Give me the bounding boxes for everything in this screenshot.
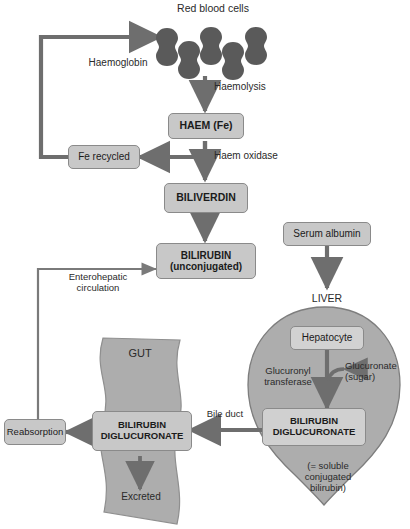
haemoglobin-label: Haemoglobin bbox=[68, 57, 168, 69]
bilirubin-unconjugated-box[interactable]: BILIRUBIN (unconjugated) bbox=[156, 243, 256, 279]
liver-label: LIVER bbox=[297, 292, 357, 304]
red-blood-cell-icon bbox=[156, 27, 267, 80]
enterohepatic-circulation-label: Enterohepatic circulation bbox=[46, 272, 150, 294]
reabsorption-box[interactable]: Reabsorption bbox=[4, 419, 66, 445]
haem-oxidase-label: Haem oxidase bbox=[214, 150, 309, 162]
bilirubin-diglucuronate-liver-box[interactable]: BILIRUBIN DIGLUCURONATE bbox=[262, 408, 366, 446]
hepatocyte-box[interactable]: Hepatocyte bbox=[290, 326, 364, 350]
red-blood-cells-label: Red blood cells bbox=[158, 2, 268, 14]
excreted-label: Excreted bbox=[110, 491, 172, 503]
haemolysis-label: Haemolysis bbox=[214, 81, 304, 93]
haem-box[interactable]: HAEM (Fe) bbox=[168, 113, 244, 139]
glucuronyl-transferase-label: Glucuronyl transferase bbox=[250, 366, 326, 388]
bilirubin-diglucuronate-gut-box[interactable]: BILIRUBIN DIGLUCURONATE bbox=[92, 411, 192, 451]
bile-duct-label: Bile duct bbox=[194, 409, 256, 420]
serum-albumin-box[interactable]: Serum albumin bbox=[283, 222, 371, 246]
gut-label: GUT bbox=[110, 347, 170, 360]
soluble-conjugated-note: (= soluble conjugated bilirubin) bbox=[288, 461, 368, 494]
bilirubin-metabolism-diagram: Red blood cells Haemoglobin Haemolysis H… bbox=[0, 0, 410, 529]
fe-recycled-box[interactable]: Fe recycled bbox=[68, 145, 140, 169]
glucuronate-label: Glucuronate (sugar) bbox=[345, 361, 410, 383]
biliverdin-box[interactable]: BILIVERDIN bbox=[164, 183, 248, 213]
